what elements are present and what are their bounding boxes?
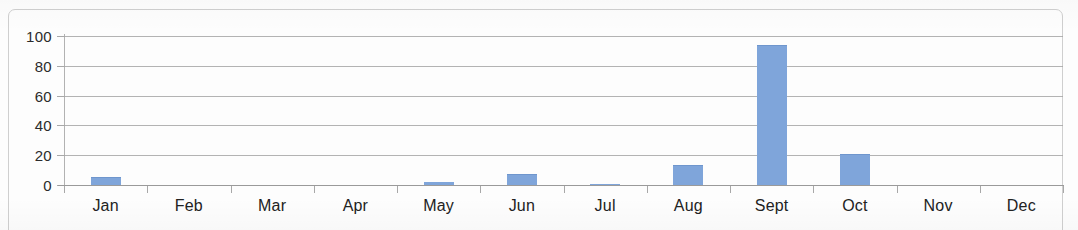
y-axis-tick-label: 80 <box>35 57 52 74</box>
x-tick <box>64 186 65 193</box>
x-tick <box>480 186 481 193</box>
bar-aug <box>673 165 703 185</box>
y-axis-tick-label: 40 <box>35 117 52 134</box>
bar-chart: 020406080100 JanFebMarAprMayJunJulAugSep… <box>0 0 1078 230</box>
bar-slot <box>314 36 397 185</box>
x-axis-label-jul: Jul <box>595 197 616 215</box>
bar-slot <box>147 36 230 185</box>
bar-slot <box>730 36 813 185</box>
x-axis-label-nov: Nov <box>924 197 953 215</box>
x-axis-label-dec: Dec <box>1007 197 1036 215</box>
x-tick <box>813 186 814 193</box>
x-axis-labels: JanFebMarAprMayJunJulAugSeptOctNovDec <box>64 197 1063 225</box>
x-tick <box>231 186 232 193</box>
x-axis-label-mar: Mar <box>258 197 286 215</box>
bar-slot <box>231 36 314 185</box>
bar-slot <box>397 36 480 185</box>
x-axis-label-jan: Jan <box>92 197 118 215</box>
x-axis-label-apr: Apr <box>343 197 369 215</box>
x-tick <box>147 186 148 193</box>
x-axis-label-sept: Sept <box>755 197 789 215</box>
x-tick <box>564 186 565 193</box>
bar-slot <box>813 36 896 185</box>
y-axis-tick-label: 20 <box>35 147 52 164</box>
y-axis-tick-label: 60 <box>35 87 52 104</box>
bar-jun <box>507 174 537 185</box>
x-tick <box>897 186 898 193</box>
bar-slot <box>480 36 563 185</box>
y-axis-labels: 020406080100 <box>0 0 52 230</box>
y-axis-tick-label: 100 <box>26 28 52 45</box>
x-tick <box>397 186 398 193</box>
x-tick <box>314 186 315 193</box>
x-axis-label-jun: Jun <box>509 197 535 215</box>
bar-oct <box>840 154 870 185</box>
x-axis-label-may: May <box>423 197 454 215</box>
bar-jan <box>91 177 121 185</box>
bar-slot <box>64 36 147 185</box>
x-axis-label-feb: Feb <box>175 197 203 215</box>
bar-slot <box>564 36 647 185</box>
x-tick <box>980 186 981 193</box>
x-tick <box>647 186 648 193</box>
y-axis-tick-label: 0 <box>43 177 52 194</box>
x-tick <box>1063 186 1064 193</box>
x-axis-label-oct: Oct <box>842 197 868 215</box>
x-axis-line <box>58 185 1064 186</box>
bar-sept <box>757 45 787 185</box>
bars-layer <box>64 36 1063 185</box>
bar-slot <box>897 36 980 185</box>
bar-slot <box>980 36 1063 185</box>
x-axis-label-aug: Aug <box>674 197 703 215</box>
bar-slot <box>647 36 730 185</box>
x-tick <box>730 186 731 193</box>
